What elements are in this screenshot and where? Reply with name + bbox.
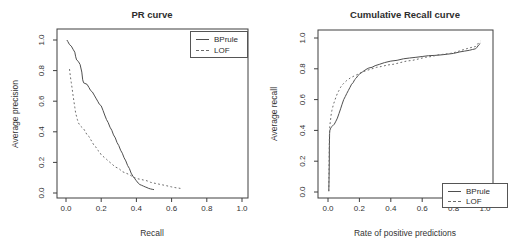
y-tick-label: 0.0	[298, 186, 307, 198]
x-tick-label: 0.6	[166, 204, 178, 213]
x-tick-label: 0.0	[60, 204, 72, 213]
plot-frame	[318, 30, 493, 198]
solid-line-sample	[448, 191, 461, 192]
dashed-line-sample	[196, 50, 209, 51]
series-line-lof	[329, 41, 481, 191]
x-tick-label: 0.6	[417, 204, 429, 213]
series-line-bprule	[329, 43, 481, 191]
figure-canvas: 0.00.20.40.60.81.00.00.20.40.60.81.00.00…	[0, 0, 514, 251]
y-tick-label: 0.6	[298, 93, 307, 105]
x-tick-label: 1.0	[236, 204, 248, 213]
right-x-axis-label: Rate of positive predictions	[354, 228, 456, 238]
legend-label-lof: LOF	[466, 197, 482, 206]
x-tick-label: 0.4	[131, 204, 143, 213]
legend-entry-bprule: BPrule	[448, 186, 503, 196]
y-tick-label: 1.0	[298, 32, 307, 44]
right-legend: BPrule LOF	[442, 183, 508, 208]
y-tick-label: 0.6	[37, 95, 46, 107]
y-tick-label: 0.0	[37, 187, 46, 199]
x-tick-label: 0.2	[354, 204, 366, 213]
y-tick-label: 0.8	[298, 63, 307, 75]
series-line-lof	[70, 69, 181, 188]
y-tick-label: 0.2	[298, 155, 307, 167]
left-x-axis-label: Recall	[140, 228, 164, 238]
left-legend: BPrule LOF	[190, 31, 248, 58]
left-y-axis-label: Average precision	[10, 80, 20, 148]
right-y-axis-label: Average recall	[269, 87, 279, 141]
legend-entry-lof: LOF	[196, 46, 243, 56]
legend-label-lof: LOF	[214, 46, 230, 55]
solid-line-sample	[196, 39, 209, 40]
legend-label-bprule: BPrule	[466, 187, 490, 196]
y-tick-label: 0.4	[37, 126, 46, 138]
plots-svg: 0.00.20.40.60.81.00.00.20.40.60.81.00.00…	[0, 0, 514, 251]
right-chart-title: Cumulative Recall curve	[350, 9, 460, 20]
x-tick-label: 0.8	[201, 204, 213, 213]
x-tick-label: 0.2	[96, 204, 108, 213]
y-tick-label: 0.2	[37, 156, 46, 168]
series-line-bprule	[67, 40, 154, 190]
y-tick-label: 0.4	[298, 124, 307, 136]
legend-entry-bprule: BPrule	[196, 35, 243, 45]
y-tick-label: 0.8	[37, 64, 46, 76]
legend-entry-lof: LOF	[448, 196, 503, 206]
y-tick-label: 1.0	[37, 34, 46, 46]
x-tick-label: 0.4	[385, 204, 397, 213]
x-tick-label: 0.0	[322, 204, 334, 213]
left-chart-title: PR curve	[131, 9, 172, 20]
legend-label-bprule: BPrule	[214, 35, 238, 44]
dashed-line-sample	[448, 201, 461, 202]
